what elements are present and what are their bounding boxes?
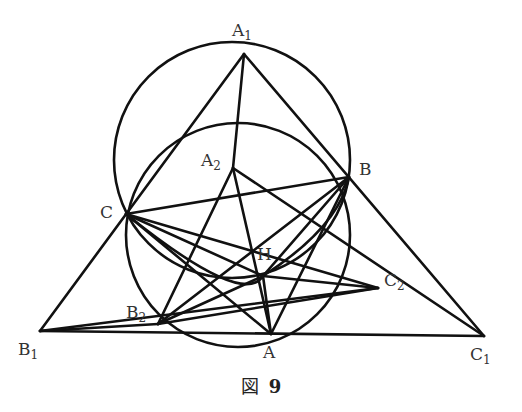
figure-caption: 図9 — [0, 372, 522, 398]
point-label-A1: A1 — [231, 20, 252, 43]
point-label-C1: C1 — [470, 344, 491, 367]
segment-A1-A2 — [233, 54, 244, 168]
point-label-B2: B2 — [126, 302, 146, 325]
segments-group — [40, 54, 484, 336]
point-label-A: A — [262, 342, 276, 362]
caption-prefix: 図 — [241, 376, 259, 397]
segment-A1-C1 — [244, 54, 484, 336]
point-label-A2: A2 — [200, 150, 221, 173]
segment-A1-B1 — [40, 54, 244, 331]
point-label-C2: C2 — [384, 270, 405, 293]
geometry-figure: A1BCAB1C1A2HB2C2 — [0, 0, 522, 412]
caption-number: 9 — [269, 376, 282, 397]
point-label-B1: B1 — [18, 339, 38, 362]
point-label-C: C — [100, 202, 113, 222]
point-label-H: H — [257, 244, 272, 264]
circumcircle-A1BC — [114, 42, 350, 278]
segment-C-H — [126, 214, 263, 276]
point-label-B: B — [359, 159, 372, 179]
segment-B1-C2 — [40, 288, 378, 331]
segment-B1-C1 — [40, 331, 484, 336]
